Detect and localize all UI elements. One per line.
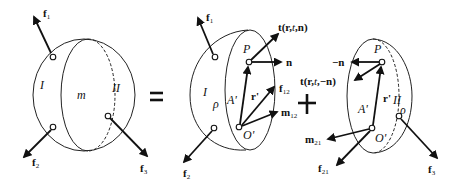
part-II-cut-face-front <box>347 39 373 153</box>
part-I-force-f2-arrow <box>184 131 212 162</box>
part-I-outer-surface <box>190 30 248 150</box>
part-I-resultant-force-label: f12 <box>279 82 290 96</box>
application-point-f3 <box>105 113 111 119</box>
part-II-traction-arrow <box>355 64 380 80</box>
part-I-normal-label: n <box>286 56 292 68</box>
free-body-diagram: I m II f1 f2 f3 I ρ A' f1 f2 <box>0 0 458 184</box>
part-I-traction-arrow <box>251 34 278 60</box>
part-II-surface-label: A' <box>357 102 368 116</box>
part-II: II ρ A' r' −n t(r,t,−n) m21 f21 f3 P O' <box>300 39 437 177</box>
mass-label: m <box>77 88 86 102</box>
application-point-f1 <box>50 54 56 60</box>
part-I-point-P <box>246 59 252 65</box>
part-I-force-f1-label: f1 <box>206 11 214 25</box>
part-II-application-point-f3 <box>396 113 402 119</box>
part-I-force-f2-label: f2 <box>183 167 191 181</box>
part-I-point-O <box>236 124 242 130</box>
part-I-position-vector-label: r' <box>251 90 259 102</box>
region-label-I: I <box>39 78 45 92</box>
part-II-position-vector-label: r' <box>383 92 391 104</box>
part-I-density-label: ρ <box>212 97 219 111</box>
application-point-f2 <box>50 124 56 130</box>
part-I-traction-label: t(r,t,n) <box>278 21 308 34</box>
force-f2-arrow <box>24 130 51 157</box>
part-I-point-P-label: P <box>242 42 251 56</box>
force-f1-arrow <box>34 17 51 53</box>
part-II-resultant-force-label: f21 <box>318 162 329 176</box>
part-I-position-vector-arrow <box>240 67 248 124</box>
part-II-point-P <box>379 59 385 65</box>
part-II-force-f3-arrow <box>401 119 437 158</box>
part-II-point-O-label: O' <box>375 131 387 145</box>
plus-sign <box>298 94 316 114</box>
force-f1-label: f1 <box>43 7 51 21</box>
force-f3-label: f3 <box>140 162 148 176</box>
part-I-point-O-label: O' <box>243 128 255 142</box>
part-II-point-P-label: P <box>373 42 382 56</box>
part-I-surface-label: A' <box>226 93 237 107</box>
part-I-application-point-f2 <box>211 125 217 131</box>
force-f2-label: f2 <box>32 156 40 170</box>
cut-surface-back <box>88 39 115 151</box>
part-I-application-point-f1 <box>212 54 218 60</box>
part-I-region-label: I <box>202 85 208 99</box>
part-II-point-O <box>369 125 375 131</box>
part-II-normal-label: −n <box>332 56 344 68</box>
part-I-resultant-moment-label: m12 <box>281 106 298 120</box>
whole-body: I m II f1 f2 f3 <box>24 7 148 176</box>
equals-sign <box>150 93 163 100</box>
region-label-II: II <box>111 81 121 95</box>
part-II-position-vector-arrow <box>373 67 381 125</box>
part-II-resultant-moment-label: m21 <box>305 133 322 147</box>
part-II-force-f3-label: f3 <box>428 163 436 177</box>
part-I: I ρ A' f1 f2 r' t(r,t,n) n f12 m12 P O' <box>183 11 308 181</box>
part-II-traction-label: t(r,t,−n) <box>300 75 336 88</box>
